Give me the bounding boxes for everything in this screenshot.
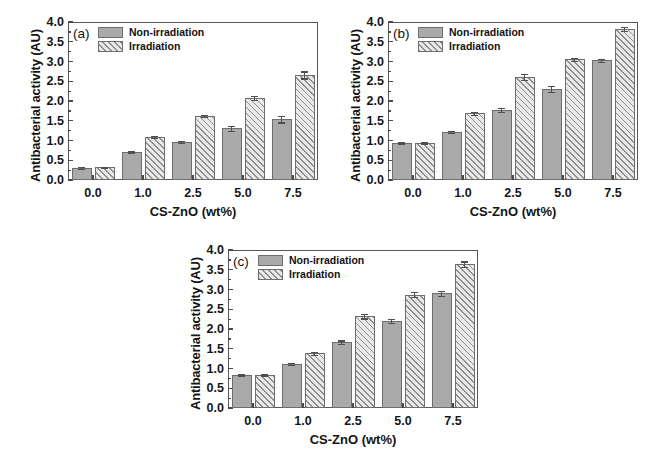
bar-irradiation	[455, 264, 475, 408]
panel-c: 0.00.51.01.52.02.53.03.54.0Antibacterial…	[0, 0, 655, 459]
panel-tag-c: (c)	[233, 254, 249, 269]
legend-swatch-non-irradiation	[258, 255, 283, 266]
bar-non-irradiation	[282, 364, 302, 408]
legend-c: Non-irradiationIrradiation	[258, 254, 364, 282]
y-tickmark-minor	[228, 319, 231, 320]
error-bar-cap	[338, 340, 345, 341]
error-bar-cap	[438, 296, 445, 297]
y-tickmark	[228, 368, 233, 369]
y-tickmark-minor	[228, 338, 231, 339]
x-tick-label: 5.0	[381, 414, 425, 428]
error-bar-cap	[311, 352, 318, 353]
y-tickmark	[228, 289, 233, 290]
legend-label: Irradiation	[289, 268, 340, 280]
error-bar-cap	[461, 261, 468, 262]
error-bar-cap	[411, 297, 418, 298]
error-bar-cap	[438, 291, 445, 292]
bar-non-irradiation	[432, 293, 452, 408]
error-bar-cap	[311, 355, 318, 356]
error-bar-cap	[338, 344, 345, 345]
y-tickmark	[228, 328, 233, 329]
y-tickmark	[228, 249, 233, 250]
error-bar-cap	[461, 267, 468, 268]
legend-item: Non-irradiation	[258, 254, 364, 266]
x-tick-label: 1.0	[281, 414, 325, 428]
error-bar-cap	[361, 314, 368, 315]
bar-non-irradiation	[382, 321, 402, 408]
error-bar-cap	[261, 376, 268, 377]
y-tickmark	[228, 309, 233, 310]
x-tick-label: 2.5	[331, 414, 375, 428]
bar-irradiation	[305, 353, 325, 408]
x-tickmark	[452, 403, 453, 408]
legend-swatch-irradiation	[258, 269, 283, 280]
error-bar-cap	[238, 376, 245, 377]
bar-irradiation	[255, 375, 275, 408]
y-tickmark-minor	[228, 358, 231, 359]
bar-irradiation	[355, 316, 375, 408]
bar-non-irradiation	[232, 375, 252, 408]
x-tickmark	[352, 403, 353, 408]
legend-label: Non-irradiation	[289, 254, 364, 266]
y-tick-label: 4.0	[194, 243, 224, 257]
error-bar-cap	[288, 365, 295, 366]
bar-irradiation	[405, 295, 425, 408]
x-tickmark	[402, 403, 403, 408]
x-tickmark	[252, 403, 253, 408]
error-bar-cap	[361, 318, 368, 319]
x-tickmark	[302, 403, 303, 408]
y-tickmark	[228, 348, 233, 349]
error-bar-cap	[388, 323, 395, 324]
y-tickmark-minor	[228, 299, 231, 300]
x-axis-label-c: CS-ZnO (wt%)	[228, 432, 478, 447]
legend-item: Irradiation	[258, 268, 364, 280]
y-axis-label-c: Antibacterial activity (AU)	[188, 257, 203, 410]
x-tick-label: 7.5	[431, 414, 475, 428]
y-tickmark	[228, 269, 233, 270]
x-tick-label: 0.0	[231, 414, 275, 428]
error-bar-cap	[388, 319, 395, 320]
bar-non-irradiation	[332, 342, 352, 408]
error-bar-cap	[411, 292, 418, 293]
y-tickmark-minor	[228, 279, 231, 280]
y-tickmark-minor	[228, 259, 231, 260]
